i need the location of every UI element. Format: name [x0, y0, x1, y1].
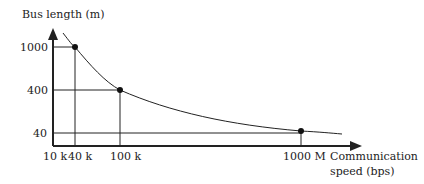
y-tick-40: 40: [33, 127, 47, 140]
x-tick-40k: 40 k: [68, 150, 92, 163]
y-axis-arrow: [48, 28, 58, 40]
data-point-100k: [117, 87, 123, 93]
y-tick-400: 400: [27, 84, 48, 97]
data-point-1000M: [298, 128, 304, 134]
y-tick-1000: 1000: [20, 41, 48, 54]
x-axis-label-line2: speed (bps): [330, 165, 395, 178]
x-tick-10k: 10 k: [43, 150, 67, 163]
data-point-40k: [72, 44, 78, 50]
x-tick-100k: 100 k: [110, 150, 141, 163]
bus-length-curve: [63, 33, 342, 134]
x-tick-1000M: 1000 M: [283, 150, 326, 163]
x-axis-label-line1: Communication: [330, 150, 418, 163]
y-axis-label: Bus length (m): [22, 8, 104, 21]
